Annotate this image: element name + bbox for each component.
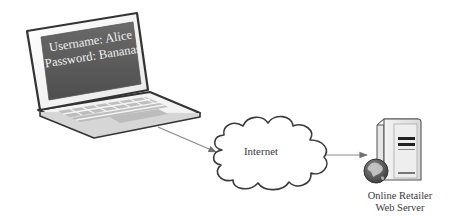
server-label-line-2: Web Server: [356, 202, 444, 214]
drive-bay: [398, 143, 415, 146]
edge-laptop-to-internet: [158, 127, 216, 152]
globe-icon: [364, 159, 388, 183]
server-label-line-1: Online Retailer: [356, 190, 444, 202]
diagram-graphics: [0, 0, 455, 220]
server-label: Online Retailer Web Server: [356, 190, 444, 214]
drive-bay: [398, 137, 415, 140]
network-diagram: Username: Alice Password: Bananas Intern…: [0, 0, 455, 220]
internet-label: Internet: [234, 145, 288, 157]
